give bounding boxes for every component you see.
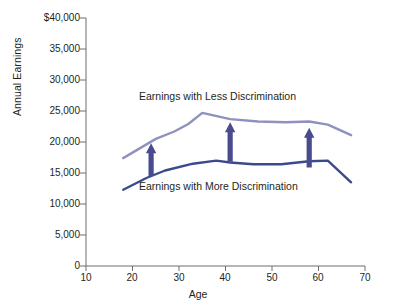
plot-area bbox=[0, 0, 396, 307]
gap-arrow-2 bbox=[225, 122, 235, 162]
gap-arrow-1 bbox=[146, 143, 156, 176]
y-axis-ticks bbox=[80, 18, 86, 266]
series-line-1 bbox=[123, 161, 351, 190]
series-line-0 bbox=[123, 113, 351, 158]
axis-lines bbox=[86, 18, 365, 266]
earnings-discrimination-chart: Annual Earnings $40,000 35,000 30,000 25… bbox=[0, 0, 396, 307]
series-lines bbox=[123, 113, 351, 190]
x-axis-ticks bbox=[86, 266, 365, 271]
